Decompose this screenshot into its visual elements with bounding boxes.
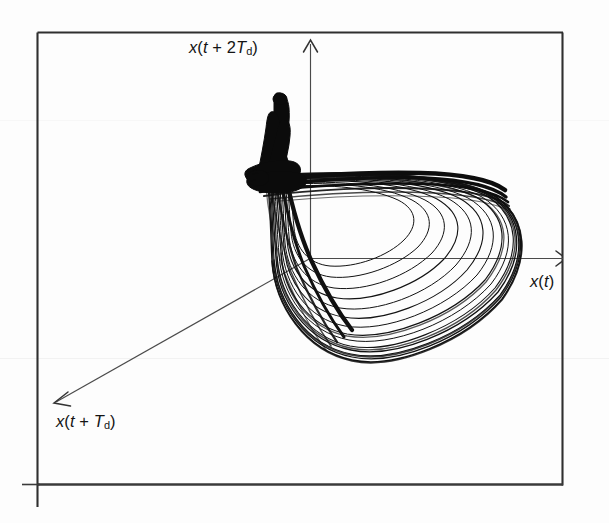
axis-label-var-T: T (236, 38, 246, 56)
x-t-axis-label: x(t) (530, 272, 554, 291)
axis-label-var-T: T (94, 412, 104, 430)
axis-label-close-paren: ) (252, 38, 258, 56)
x-t-plus-2Td-axis-label: x(t + 2Td) (189, 38, 258, 57)
attractor-figure-svg (0, 0, 609, 523)
figure-root: x(t + 2Td) x(t) x(t + Td) (0, 0, 609, 523)
axis-label-plus-2: + 2 (208, 38, 236, 56)
x-t-plus-Td-axis-label: x(t + Td) (56, 412, 116, 431)
axis-label-plus: + (75, 412, 94, 430)
axis-label-close-paren: ) (549, 272, 555, 290)
axis-label-close-paren: ) (110, 412, 116, 430)
